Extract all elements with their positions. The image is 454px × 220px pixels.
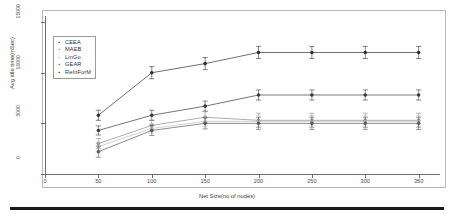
legend-item-lingo: ▪LinGo [56,54,91,61]
data-point-marker [203,122,207,126]
data-point-marker [417,51,421,55]
legend-item-label: ReInForM [63,69,91,76]
data-point-marker [97,150,101,154]
series-line-reinform [98,52,418,115]
legend-item-label: CEEA [63,39,81,46]
data-point-marker [257,51,261,55]
data-point-marker [310,93,314,97]
data-point-marker [417,122,421,126]
data-point-marker [417,93,421,97]
data-point-marker [97,129,101,133]
legend-marker-icon: ▪ [56,61,63,68]
data-point-marker [257,122,261,126]
legend-item-label: GEAR [63,61,81,68]
data-point-marker [97,113,101,117]
data-point-marker [363,122,367,126]
legend-item-maeb: ▪MAEB [56,46,91,53]
legend-item-ceea: ▪CEEA [56,39,91,46]
series-gear [96,117,421,157]
data-point-marker [203,104,207,108]
legend-item-label: LinGo [63,54,81,61]
legend-marker-icon: ▪ [56,46,63,53]
data-point-marker [150,71,154,75]
chart-data-layer [0,0,454,220]
data-point-marker [257,93,261,97]
data-point-marker [310,51,314,55]
bottom-rule [10,207,444,210]
data-point-marker [363,93,367,97]
legend-item-reinform: ▪ReInForM [56,69,91,76]
data-point-marker [363,51,367,55]
data-point-marker [150,129,154,133]
data-point-marker [150,113,154,117]
data-point-marker [310,122,314,126]
data-point-marker [203,62,207,66]
chart-figure: 050001000015000 050100150200250300350 Av… [0,0,454,220]
legend-marker-icon: ▪ [56,69,63,76]
legend-item-gear: ▪GEAR [56,61,91,68]
series-reinform [96,46,421,120]
legend-marker-icon: ▪ [56,54,63,61]
chart-legend: ▪CEEA▪MAEB▪LinGo▪GEAR▪ReInForM [53,36,96,79]
legend-marker-icon: ▪ [56,39,63,46]
legend-item-label: MAEB [63,46,81,53]
